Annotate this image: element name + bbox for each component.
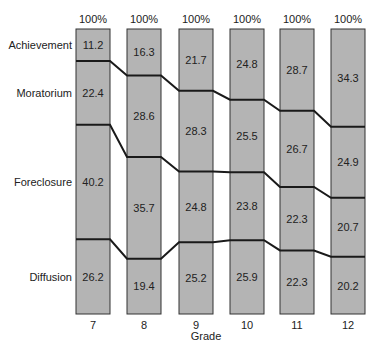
x-tick-label: 11 bbox=[291, 319, 302, 331]
x-tick-label: 8 bbox=[141, 319, 147, 331]
value-label: 28.6 bbox=[133, 110, 154, 122]
total-label: 100% bbox=[283, 13, 311, 25]
total-label: 100% bbox=[334, 13, 362, 25]
boundary-line bbox=[76, 125, 365, 198]
row-label-foreclosure: Foreclosure bbox=[14, 176, 72, 188]
value-label: 19.4 bbox=[133, 280, 154, 292]
row-label-moratorium: Moratorium bbox=[16, 87, 72, 99]
row-label-achievement: Achievement bbox=[8, 39, 72, 51]
value-label: 22.3 bbox=[286, 213, 307, 225]
value-label: 34.3 bbox=[337, 72, 358, 84]
value-label: 26.7 bbox=[286, 143, 307, 155]
value-label: 25.2 bbox=[185, 272, 206, 284]
value-label: 28.7 bbox=[286, 64, 307, 76]
value-label: 40.2 bbox=[82, 176, 103, 188]
total-label: 100% bbox=[130, 13, 158, 25]
value-label: 25.5 bbox=[236, 130, 257, 142]
stacked-bar-chart: 11.222.440.226.2100%716.328.635.719.4100… bbox=[0, 0, 374, 348]
value-label: 20.7 bbox=[337, 221, 358, 233]
value-label: 24.8 bbox=[236, 58, 257, 70]
x-axis-label: Grade bbox=[191, 330, 222, 342]
boundary-line bbox=[76, 239, 365, 258]
value-label: 25.9 bbox=[236, 271, 257, 283]
x-tick-label: 7 bbox=[90, 319, 96, 331]
value-label: 28.3 bbox=[185, 125, 206, 137]
value-label: 24.8 bbox=[185, 201, 206, 213]
total-label: 100% bbox=[233, 13, 261, 25]
boundary-line bbox=[76, 61, 365, 127]
value-label: 35.7 bbox=[133, 202, 154, 214]
value-label: 22.3 bbox=[286, 276, 307, 288]
value-label: 21.7 bbox=[185, 54, 206, 66]
value-label: 23.8 bbox=[236, 200, 257, 212]
value-label: 20.2 bbox=[337, 280, 358, 292]
value-label: 22.4 bbox=[82, 87, 103, 99]
total-label: 100% bbox=[79, 13, 107, 25]
x-tick-label: 10 bbox=[241, 319, 253, 331]
row-label-diffusion: Diffusion bbox=[29, 271, 72, 283]
connector-lines bbox=[76, 61, 365, 259]
total-label: 100% bbox=[182, 13, 210, 25]
value-label: 26.2 bbox=[82, 271, 103, 283]
value-label: 24.9 bbox=[337, 156, 358, 168]
value-label: 16.3 bbox=[133, 46, 154, 58]
x-tick-label: 12 bbox=[342, 319, 354, 331]
value-label: 11.2 bbox=[83, 39, 104, 51]
bar-grade-8 bbox=[127, 29, 161, 314]
